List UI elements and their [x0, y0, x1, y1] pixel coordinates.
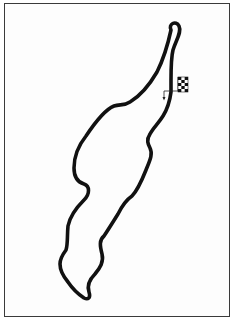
start-finish-marker	[163, 77, 189, 101]
arrow-head-icon	[163, 97, 166, 101]
track-diagram	[0, 0, 234, 322]
track-outline	[60, 23, 180, 299]
checkered-flag-icon	[178, 77, 188, 92]
